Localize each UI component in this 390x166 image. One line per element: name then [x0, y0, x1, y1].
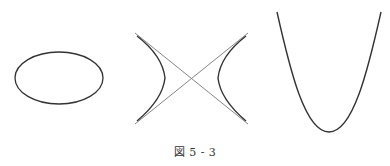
hyperbola-right-branch: [218, 36, 246, 121]
parabola-curve: [277, 12, 381, 132]
hyperbola-left-branch: [137, 36, 165, 121]
ellipse-curve: [15, 52, 103, 104]
figure-caption: 図 5 - 3: [0, 143, 390, 159]
conic-sections-figure: [0, 0, 390, 166]
